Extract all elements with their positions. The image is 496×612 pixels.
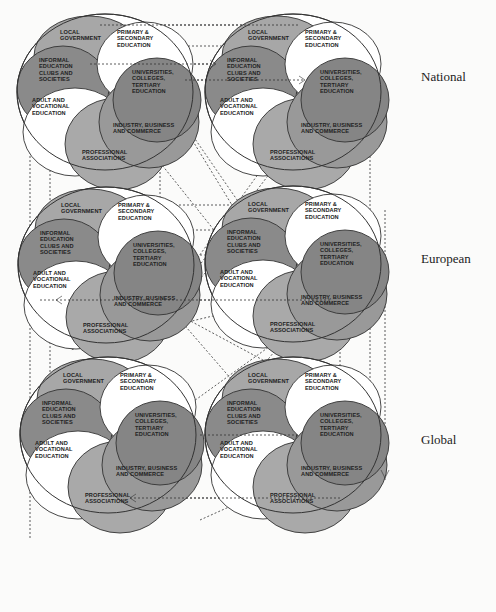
- sector-label-informal: INFORMALEDUCATIONCLUBS ANDSOCIETIES: [39, 57, 73, 82]
- sector-label-primary-secondary: PRIMARY &SECONDARYEDUCATION: [305, 201, 342, 220]
- sector-label-professional: PROFESSIONALASSOCIATIONS: [85, 492, 131, 504]
- sector-label-informal: INFORMALEDUCATIONCLUBS ANDSOCIETIES: [227, 57, 261, 82]
- ecosystem-diagram: LOCALGOVERNMENTPRIMARY &SECONDARYEDUCATI…: [0, 0, 496, 612]
- sector-label-informal: INFORMALEDUCATIONCLUBS ANDSOCIETIES: [227, 400, 261, 425]
- sector-label-professional: PROFESSIONALASSOCIATIONS: [83, 322, 129, 334]
- sector-label-informal: INFORMALEDUCATIONCLUBS ANDSOCIETIES: [42, 400, 76, 425]
- sector-label-professional: PROFESSIONALASSOCIATIONS: [82, 149, 128, 161]
- sector-label-primary-secondary: PRIMARY &SECONDARYEDUCATION: [305, 372, 342, 391]
- level-label-european: European: [421, 251, 471, 266]
- level-label-global: Global: [421, 432, 457, 447]
- sector-label-professional: PROFESSIONALASSOCIATIONS: [270, 149, 316, 161]
- sector-label-informal: INFORMALEDUCATIONCLUBS ANDSOCIETIES: [40, 230, 74, 255]
- level-label-national: National: [421, 69, 466, 84]
- sector-label-primary-secondary: PRIMARY &SECONDARYEDUCATION: [118, 202, 155, 221]
- sector-label-primary-secondary: PRIMARY &SECONDARYEDUCATION: [120, 372, 157, 391]
- sector-label-primary-secondary: PRIMARY &SECONDARYEDUCATION: [117, 29, 154, 48]
- sector-label-adult-vocational: ADULT ANDVOCATIONALEDUCATION: [32, 97, 70, 116]
- sector-label-adult-vocational: ADULT ANDVOCATIONALEDUCATION: [35, 440, 73, 459]
- sector-label-adult-vocational: ADULT ANDVOCATIONALEDUCATION: [220, 269, 258, 288]
- sector-label-adult-vocational: ADULT ANDVOCATIONALEDUCATION: [220, 440, 258, 459]
- sector-label-professional: PROFESSIONALASSOCIATIONS: [270, 321, 316, 333]
- sector-label-adult-vocational: ADULT ANDVOCATIONALEDUCATION: [33, 270, 71, 289]
- sector-label-adult-vocational: ADULT ANDVOCATIONALEDUCATION: [220, 97, 258, 116]
- sector-label-informal: INFORMALEDUCATIONCLUBS ANDSOCIETIES: [227, 229, 261, 254]
- sector-label-professional: PROFESSIONALASSOCIATIONS: [270, 492, 316, 504]
- sector-label-primary-secondary: PRIMARY &SECONDARYEDUCATION: [305, 29, 342, 48]
